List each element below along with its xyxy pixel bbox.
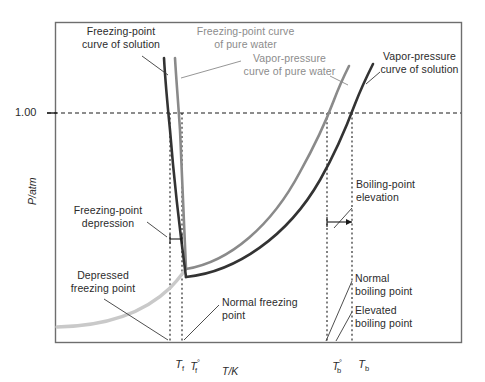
tick-sup: ° — [197, 358, 200, 367]
y-axis-tick-label: 1.00 — [15, 106, 36, 118]
tick-base: T — [358, 358, 365, 370]
label-freezing-curve-pure-water: Freezing-point curve of pure water — [183, 25, 308, 50]
x-axis-title: T/K — [222, 365, 238, 377]
label-depressed-freezing-point: Depressed freezing point — [53, 269, 153, 294]
label-vapor-curve-pure-water: Vapor-pressure curve of pure water — [232, 52, 347, 77]
label-freezing-point-depression: Freezing-point depression — [62, 204, 154, 229]
label-normal-boiling-point: Normal boiling point — [355, 272, 450, 297]
label-boiling-point-elevation: Boiling-point elevation — [356, 178, 451, 203]
label-elevated-boiling-point: Elevated boiling point — [355, 304, 450, 329]
x-tick-normal-boiling-point: T°b — [320, 346, 341, 382]
label-freezing-curve-solution: Freezing-point curve of solution — [66, 25, 176, 50]
label-vapor-curve-solution: Vapor-pressure curve of solution — [367, 50, 472, 75]
x-tick-elevated-boiling-point: Tb — [346, 346, 369, 382]
phase-diagram-figure: Freezing-point curve of solution Freezin… — [0, 0, 485, 382]
tick-sub: b — [337, 366, 341, 375]
tick-sub: f — [195, 366, 197, 375]
label-normal-freezing-point: Normal freezing point — [222, 296, 342, 321]
x-tick-normal-freezing-point: T°f — [178, 346, 197, 382]
tick-sub: b — [365, 364, 369, 373]
y-axis-title: P/atm — [26, 178, 38, 205]
